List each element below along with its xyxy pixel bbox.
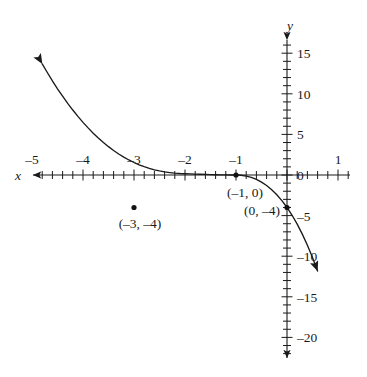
y-axis-group: y 151050–5–10–15–20 <box>282 18 318 358</box>
x-tick-label--4: –4 <box>75 152 90 167</box>
marked-point <box>131 205 136 210</box>
y-tick-label-10: 10 <box>297 87 311 102</box>
coordinate-plane-svg: x –5–4–3–2–11 y 151050–5–10–15–20 (–3, –… <box>0 0 367 377</box>
y-tick-label-0: 0 <box>297 168 304 183</box>
y-tick-label--20: –20 <box>296 330 318 345</box>
x-axis-label: x <box>14 168 21 183</box>
marked-point <box>284 205 289 210</box>
x-axis-tick-labels: –5–4–3–2–11 <box>24 152 341 167</box>
y-tick-label--15: –15 <box>296 290 318 305</box>
point-label-minus3-minus4: (–3, –4) <box>119 216 162 231</box>
y-tick-label--5: –5 <box>296 209 311 224</box>
x-tick-label--5: –5 <box>24 152 39 167</box>
y-tick-label-15: 15 <box>297 46 311 61</box>
y-axis-tick-labels: 151050–5–10–15–20 <box>296 46 318 345</box>
curve-group <box>42 64 317 271</box>
point-label-minus1-0: (–1, 0) <box>227 185 263 200</box>
point-label-0-minus4: (0, –4) <box>244 203 280 218</box>
function-curve <box>42 64 317 271</box>
x-tick-label-1: 1 <box>335 152 342 167</box>
y-tick-label-5: 5 <box>297 127 304 142</box>
graph-figure: x –5–4–3–2–11 y 151050–5–10–15–20 (–3, –… <box>0 0 367 377</box>
y-axis-label: y <box>285 18 293 33</box>
x-tick-label--2: –2 <box>177 152 192 167</box>
x-tick-label--1: –1 <box>228 152 243 167</box>
marked-point <box>233 172 238 177</box>
